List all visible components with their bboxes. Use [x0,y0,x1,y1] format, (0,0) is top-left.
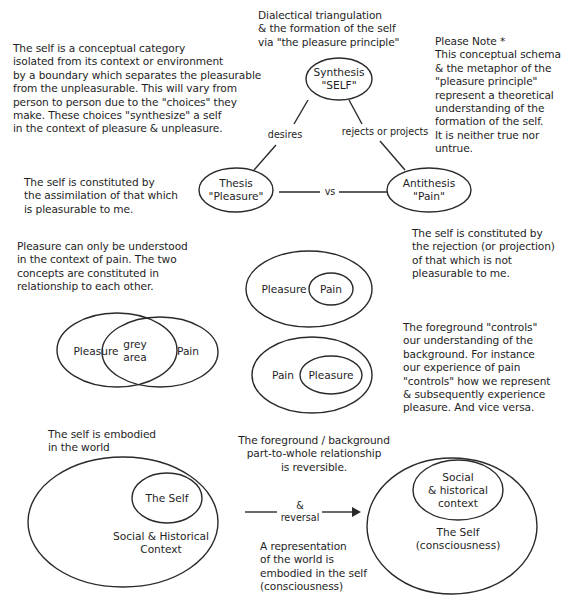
note-pleasure-pain-context: Pleasure can only be understood in the c… [17,240,188,294]
edge-rejects-lower [380,141,405,170]
edge-desires-lower [254,145,276,170]
world-right-inner-label: Social & historical context [413,471,503,510]
venn-label-pleasure: Pleasure [66,345,126,358]
nested2-inner-label: Pleasure [302,369,360,382]
note-please-note: Please Note * This conceptual schema & t… [435,35,561,156]
note-rejection: The self is constituted by the rejection… [412,227,555,281]
thesis-label: Thesis "Pleasure" [196,177,276,203]
venn-label-overlap: grey area [120,338,150,364]
note-reversible: The foreground / background part-to-whol… [232,434,396,474]
nested2-outer-label: Pain [266,369,300,382]
world-right-outer-label: The Self (consciousness) [398,526,518,552]
edge-label-desires: desires [255,129,315,141]
edge-label-vs: vs [320,186,340,198]
diagram-title: Dialectical triangulation & the formatio… [258,9,399,49]
note-self-category: The self is a conceptual category isolat… [13,42,261,136]
note-representation: A representation of the world is embodie… [260,540,367,594]
reversal-label: & reversal [275,500,325,524]
nested1-outer-label: Pleasure [257,283,311,296]
edge-label-rejects: rejects or projects [330,126,440,138]
world-left-outer [28,457,218,587]
world-left-inner-label: The Self [132,492,202,505]
world-left-outer-label: Social & Historical Context [96,530,226,556]
note-foreground-controls: The foreground "controls" our understand… [403,321,550,415]
edge-desires-upper [294,100,308,124]
antithesis-label: Antithesis "Pain" [387,177,471,203]
synthesis-label: Synthesis "SELF" [299,66,379,92]
note-embodied: The self is embodied in the world [48,428,156,455]
nested1-inner-label: Pain [311,283,351,296]
arrow-head-icon [352,507,361,517]
edge-rejects-upper [349,100,362,124]
venn-label-pain: Pain [168,345,208,358]
note-assimilation: The self is constituted by the assimilat… [24,176,178,216]
